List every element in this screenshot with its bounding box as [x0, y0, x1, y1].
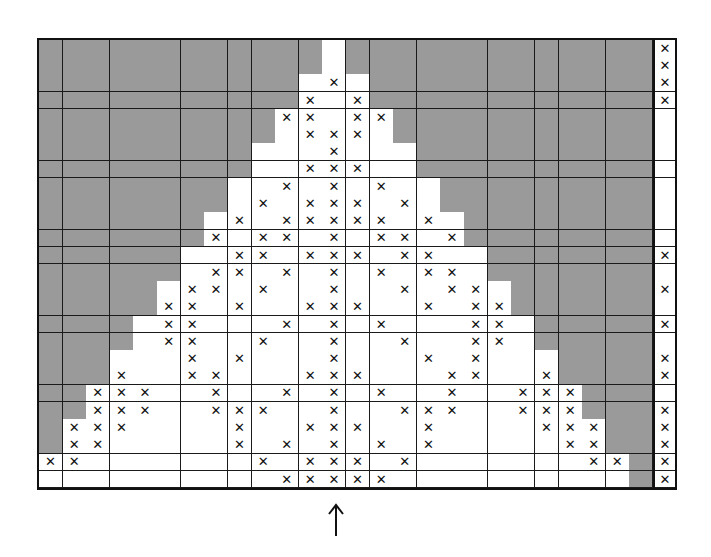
stitch-x-mark-icon: ✕	[204, 230, 227, 247]
background-cell	[511, 264, 535, 282]
motif-cell	[275, 402, 299, 420]
stitch-x-mark-icon: ✕	[393, 454, 416, 471]
background-cell	[63, 264, 87, 282]
stitch-x-mark-icon: ✕	[228, 350, 251, 367]
motif-cell	[204, 212, 228, 230]
background-cell	[157, 109, 181, 127]
stitch-x-mark-icon: ✕	[464, 333, 487, 350]
background-cell	[440, 57, 464, 75]
stitch-x-mark-icon: ✕	[346, 92, 369, 109]
motif-cell	[370, 454, 394, 472]
background-cell	[204, 74, 228, 92]
stitch-x-mark-icon: ✕	[299, 92, 322, 109]
motif-cell	[346, 264, 370, 282]
background-cell	[535, 57, 559, 75]
background-cell	[39, 230, 63, 248]
stitch-x-mark-icon: ✕	[417, 402, 440, 419]
motif-cell: ✕	[393, 195, 417, 213]
motif-cell	[370, 126, 394, 144]
motif-cell	[417, 471, 441, 489]
motif-cell	[511, 316, 535, 334]
motif-cell: ✕	[464, 316, 488, 334]
motif-cell: ✕	[299, 195, 323, 213]
motif-cell	[228, 333, 252, 351]
background-cell	[86, 161, 110, 179]
background-cell	[535, 316, 559, 334]
stitch-x-mark-icon: ✕	[228, 212, 251, 229]
motif-cell: ✕	[559, 419, 583, 437]
stitch-x-mark-icon: ✕	[252, 230, 275, 247]
stitch-x-mark-icon: ✕	[464, 281, 487, 298]
background-cell	[535, 178, 559, 196]
motif-cell: ✕	[275, 316, 299, 334]
motif-cell	[181, 402, 205, 420]
stitch-x-mark-icon: ✕	[346, 212, 369, 229]
motif-cell	[582, 471, 606, 489]
background-cell	[511, 195, 535, 213]
background-cell	[63, 161, 87, 179]
background-cell	[488, 40, 512, 58]
motif-cell	[157, 281, 181, 299]
motif-cell: ✕	[181, 298, 205, 316]
motif-cell: ✕	[252, 281, 276, 299]
background-cell	[559, 92, 583, 110]
background-cell	[39, 264, 63, 282]
background-cell	[488, 230, 512, 248]
stitch-x-mark-icon: ✕	[275, 264, 298, 281]
motif-cell: ✕	[440, 402, 464, 420]
background-cell	[606, 109, 630, 127]
stitch-x-mark-icon: ✕	[655, 350, 675, 367]
motif-cell	[157, 402, 181, 420]
motif-cell	[346, 143, 370, 161]
stitch-x-mark-icon: ✕	[322, 126, 345, 143]
motif-cell	[393, 143, 417, 161]
motif-cell	[181, 385, 205, 403]
motif-cell	[346, 402, 370, 420]
background-cell	[488, 212, 512, 230]
stitch-x-mark-icon: ✕	[346, 471, 369, 488]
background-cell	[464, 57, 488, 75]
background-cell	[370, 40, 394, 58]
motif-cell	[488, 281, 512, 299]
motif-cell: ✕	[275, 230, 299, 248]
background-cell	[440, 178, 464, 196]
background-cell	[559, 40, 583, 58]
background-cell	[370, 74, 394, 92]
motif-cell	[322, 57, 346, 75]
background-cell	[511, 74, 535, 92]
background-cell	[582, 316, 606, 334]
motif-cell	[488, 471, 512, 489]
background-cell	[133, 281, 157, 299]
motif-cell: ✕	[181, 281, 205, 299]
stitch-x-mark-icon: ✕	[370, 178, 393, 195]
background-cell	[606, 298, 630, 316]
stitch-x-mark-icon: ✕	[322, 471, 345, 488]
motif-cell	[464, 436, 488, 454]
background-cell	[63, 350, 87, 368]
background-cell	[606, 436, 630, 454]
stitch-x-mark-icon: ✕	[370, 264, 393, 281]
background-cell	[86, 350, 110, 368]
background-cell	[393, 74, 417, 92]
motif-cell: ✕	[370, 178, 394, 196]
motif-cell	[228, 230, 252, 248]
background-cell	[228, 92, 252, 110]
motif-cell: ✕	[322, 298, 346, 316]
motif-cell	[370, 247, 394, 265]
motif-cell: ✕	[417, 247, 441, 265]
motif-cell: ✕	[559, 402, 583, 420]
background-cell	[252, 92, 276, 110]
motif-cell	[110, 471, 134, 489]
motif-cell: ✕	[440, 230, 464, 248]
motif-cell	[322, 109, 346, 127]
stitch-x-mark-icon: ✕	[582, 419, 605, 436]
background-cell	[629, 74, 653, 92]
background-cell	[606, 230, 630, 248]
background-cell	[606, 333, 630, 351]
motif-cell: ✕	[464, 333, 488, 351]
stitch-x-mark-icon: ✕	[322, 402, 345, 419]
motif-cell	[133, 419, 157, 437]
stitch-x-mark-icon: ✕	[228, 298, 251, 315]
side-key-cell	[655, 143, 675, 161]
background-cell	[606, 212, 630, 230]
